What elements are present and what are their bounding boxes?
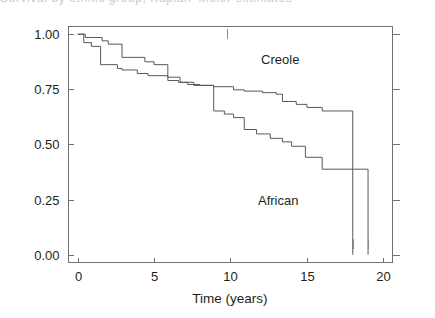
figure-container: Survival by ethnic group, Kaplan–Meier e… [0, 0, 435, 318]
y-axis-tick-group: 0.000.250.500.751.00 [34, 27, 73, 263]
x-axis-tick-label: 10 [223, 269, 237, 284]
x-axis-tick-label: 20 [376, 269, 390, 284]
x-axis-tick-label: 15 [300, 269, 314, 284]
curve-annotations-group: CreoleAfrican [258, 52, 299, 208]
x-axis-title: Time (years) [192, 291, 267, 306]
y-axis-tick-label: 0.00 [34, 248, 59, 263]
x-axis-tick-label: 0 [75, 269, 82, 284]
survival-curves-group [78, 34, 368, 255]
y-axis-tick-label: 0.75 [34, 82, 59, 97]
x-axis-tick-group: 05101520 [75, 258, 391, 284]
right-axis-tick-group [393, 35, 400, 256]
plot-frame-border [69, 27, 393, 263]
curve-label-creole: Creole [261, 52, 299, 67]
y-axis-tick-label: 0.25 [34, 193, 59, 208]
x-axis-tick-label: 5 [151, 269, 158, 284]
survival-curve-creole [78, 34, 353, 255]
kaplan-meier-survival-chart: 0.000.250.500.751.00 05101520 CreoleAfri… [0, 0, 435, 318]
y-axis-tick-label: 1.00 [34, 27, 59, 42]
survival-curve-african [78, 34, 368, 255]
y-axis-tick-label: 0.50 [34, 137, 59, 152]
curve-label-african: African [258, 193, 298, 208]
